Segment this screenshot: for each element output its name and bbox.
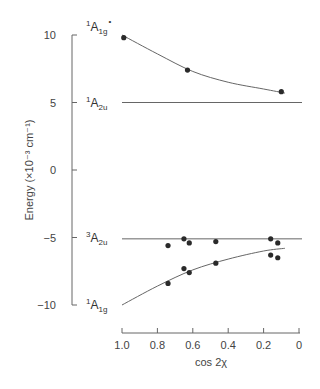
y-tick-label: −5	[43, 232, 56, 244]
y-tick-label: 0	[50, 164, 56, 176]
x-tick-label: 0.8	[150, 339, 165, 351]
axes: 1050−5−10Energy (×10⁻³ cm⁻¹)1.00.80.60.4…	[23, 29, 302, 368]
series-layer	[121, 35, 302, 305]
data-point	[165, 281, 170, 286]
labels-layer: 1A1g•1A2u3A2u1A1g	[86, 17, 111, 314]
data-point	[165, 243, 170, 248]
state-label: 1A2u	[86, 95, 107, 112]
state-label: 3A2u	[86, 230, 107, 247]
data-point	[187, 270, 192, 275]
state-label: 1A1g•	[86, 17, 111, 36]
data-point	[181, 266, 186, 271]
label-main: A	[90, 231, 98, 245]
x-tick-label: 0	[296, 339, 302, 351]
x-tick-label: 1.0	[114, 339, 129, 351]
data-point	[187, 240, 192, 245]
y-axis-title: Energy (×10⁻³ cm⁻¹)	[23, 120, 35, 221]
label-subscript: 1g	[98, 305, 107, 314]
data-point	[213, 239, 218, 244]
label-subscript: 2u	[98, 238, 107, 247]
data-point	[275, 255, 280, 260]
data-point	[181, 236, 186, 241]
data-point	[121, 35, 126, 40]
data-point	[185, 68, 190, 73]
data-point	[268, 236, 273, 241]
state-label: 1A1g	[86, 297, 107, 314]
label-subscript: 2u	[98, 103, 107, 112]
data-point	[279, 89, 284, 94]
data-point	[213, 261, 218, 266]
fit-curve	[122, 248, 285, 305]
x-axis-title: cos 2χ	[195, 356, 227, 368]
x-tick-label: 0.4	[221, 339, 236, 351]
label-star: •	[108, 17, 111, 26]
energy-chart: 1050−5−10Energy (×10⁻³ cm⁻¹)1.00.80.60.4…	[0, 0, 320, 389]
y-tick-label: −10	[37, 299, 56, 311]
label-main: A	[90, 96, 98, 110]
data-point	[275, 240, 280, 245]
label-main: A	[90, 298, 98, 312]
x-tick-label: 0.6	[185, 339, 200, 351]
y-tick-label: 5	[50, 97, 56, 109]
fit-curve	[122, 35, 285, 93]
label-main: A	[90, 20, 98, 34]
x-tick-label: 0.2	[256, 339, 271, 351]
data-point	[268, 252, 273, 257]
label-subscript: 1g	[98, 27, 107, 36]
y-tick-label: 10	[44, 29, 56, 41]
